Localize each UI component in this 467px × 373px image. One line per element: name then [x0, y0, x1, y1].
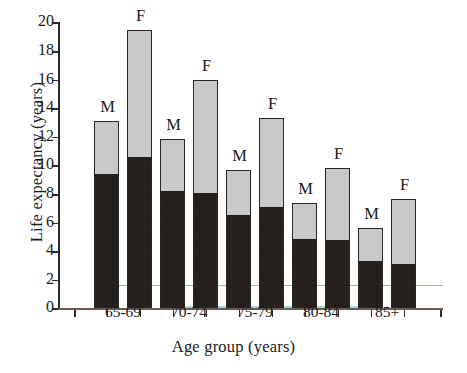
- bar-65-69-F[interactable]: F: [127, 30, 152, 309]
- bar-sex-label-85+-F: F: [385, 175, 425, 195]
- bar-sex-label-80-84-M: M: [286, 179, 326, 199]
- bar-85+-F[interactable]: F: [391, 199, 416, 308]
- y-tick-label: 16: [38, 70, 54, 88]
- x-tick-mark-9: [371, 310, 373, 317]
- x-tick-mark-0: [74, 310, 76, 317]
- bar-sex-label-80-84-F: F: [319, 144, 359, 164]
- bar-sex-label-65-69-M: M: [88, 97, 128, 117]
- y-tick-label: 6: [46, 213, 54, 231]
- x-category-label-85+: 85+: [375, 303, 399, 321]
- y-axis-line: [58, 22, 60, 308]
- bar-80-84-M[interactable]: M: [292, 203, 317, 308]
- bar-sex-label-75-79-M: M: [220, 146, 260, 166]
- bar-lower-segment: [194, 193, 217, 307]
- y-tick-label: 8: [46, 184, 54, 202]
- x-category-label-75-79: 75-79: [237, 303, 273, 321]
- y-tick-label: 18: [38, 41, 54, 59]
- x-tick-mark-11: [440, 310, 442, 317]
- x-category-label-80-84: 80-84: [303, 303, 339, 321]
- y-tick-label: 12: [38, 127, 54, 145]
- bar-lower-segment: [128, 157, 151, 307]
- y-tick-label: 20: [38, 12, 54, 30]
- bar-65-69-M[interactable]: M: [94, 121, 119, 308]
- bar-sex-label-70-74-M: M: [154, 115, 194, 135]
- bar-lower-segment: [359, 261, 382, 308]
- chart-figure: Life expectancy (years) 0246810121416182…: [0, 0, 467, 373]
- bar-70-74-M[interactable]: M: [160, 139, 185, 308]
- y-tick-label: 2: [46, 270, 54, 288]
- x-category-label-70-74: 70-74: [171, 303, 207, 321]
- bar-lower-segment: [227, 215, 250, 307]
- y-tick-label: 10: [38, 155, 54, 173]
- bar-sex-label-85+-M: M: [352, 204, 392, 224]
- x-tick-mark-10: [404, 310, 406, 317]
- bar-70-74-F[interactable]: F: [193, 80, 218, 308]
- y-tick-label: 14: [38, 98, 54, 116]
- bar-sex-label-70-74-F: F: [187, 56, 227, 76]
- x-axis-title: Age group (years): [0, 337, 467, 357]
- bar-lower-segment: [95, 174, 118, 307]
- bar-sex-label-75-79-F: F: [253, 94, 293, 114]
- bar-lower-segment: [326, 240, 349, 307]
- plot-area: 02468101214161820 MFMFMFMFMF: [58, 22, 443, 310]
- bar-lower-segment: [161, 191, 184, 308]
- bar-lower-segment: [293, 239, 316, 308]
- bar-lower-segment: [392, 264, 415, 308]
- bar-75-79-F[interactable]: F: [259, 118, 284, 308]
- bar-sex-label-65-69-F: F: [121, 6, 161, 26]
- bar-75-79-M[interactable]: M: [226, 170, 251, 308]
- y-tick-label: 4: [46, 241, 54, 259]
- bar-lower-segment: [260, 207, 283, 308]
- bar-80-84-F[interactable]: F: [325, 168, 350, 309]
- y-tick-label: 0: [46, 298, 54, 316]
- bar-85+-M[interactable]: M: [358, 228, 383, 308]
- x-category-label-65-69: 65-69: [105, 303, 141, 321]
